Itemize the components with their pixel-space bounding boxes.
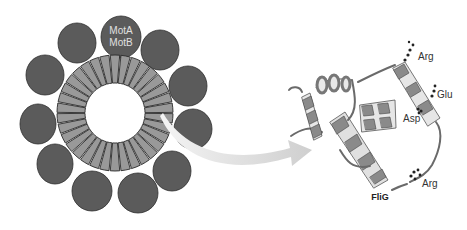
stator-circle bbox=[153, 151, 191, 191]
helix-2 bbox=[316, 75, 352, 93]
residue-label-glu: Glu bbox=[437, 89, 453, 100]
motb-label: MotB bbox=[109, 37, 133, 48]
coil bbox=[392, 184, 407, 190]
stator-circle bbox=[58, 23, 96, 63]
residue-label-asp: Asp bbox=[403, 113, 421, 124]
stator-circle bbox=[169, 66, 207, 106]
flig-motor-diagram: MotA MotB bbox=[0, 0, 467, 230]
coil bbox=[358, 65, 395, 82]
mota-label: MotA bbox=[109, 25, 133, 36]
flig-title: FliG bbox=[371, 192, 389, 202]
stator-circle bbox=[72, 171, 112, 211]
helix-4 bbox=[360, 100, 396, 132]
stator-circle bbox=[26, 55, 64, 95]
stator-circle bbox=[20, 104, 56, 144]
rotor-ring bbox=[57, 55, 173, 171]
coil bbox=[289, 87, 302, 92]
stator-circle bbox=[118, 173, 158, 213]
residue-label-arg-top: Arg bbox=[418, 51, 434, 62]
stator-circle bbox=[37, 144, 73, 184]
helix-1 bbox=[302, 93, 322, 140]
residue-label-arg-bottom: Arg bbox=[422, 178, 438, 189]
